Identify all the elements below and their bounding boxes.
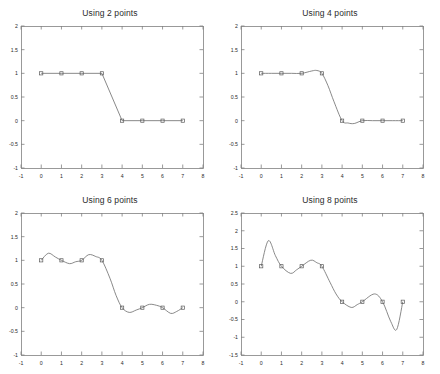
plot-area: -1012345678-1-0.500.511.52 <box>220 0 440 187</box>
x-tick-label: 8 <box>422 360 425 366</box>
y-tick-label: 2 <box>15 23 18 29</box>
y-tick-label: -1 <box>13 165 18 171</box>
x-tick-label: 6 <box>381 173 384 179</box>
x-tick-label: 5 <box>141 360 144 366</box>
y-tick-label: 0 <box>235 118 238 124</box>
plot-panel: Using 6 points-1012345678-1-0.500.511.52 <box>0 187 220 374</box>
x-tick-label: 8 <box>422 173 425 179</box>
x-tick-label: 1 <box>60 360 63 366</box>
y-tick-label: 2 <box>235 23 238 29</box>
x-tick-label: 5 <box>141 173 144 179</box>
x-tick-label: -1 <box>239 173 244 179</box>
x-tick-label: 6 <box>381 360 384 366</box>
plot-area: -1012345678-1.5-1-0.500.511.522.5 <box>220 187 440 374</box>
y-tick-label: 0 <box>15 118 18 124</box>
x-tick-label: 3 <box>100 173 103 179</box>
y-tick-label: -0.5 <box>9 141 18 147</box>
y-tick-label: 0.5 <box>231 281 238 287</box>
y-tick-label: 2 <box>15 210 18 216</box>
x-tick-label: 3 <box>320 173 323 179</box>
x-tick-label: -1 <box>19 173 24 179</box>
x-tick-label: 6 <box>161 173 164 179</box>
x-tick-label: 2 <box>80 173 83 179</box>
x-tick-label: 2 <box>300 360 303 366</box>
x-tick-label: 4 <box>121 173 124 179</box>
y-tick-label: -1 <box>233 165 238 171</box>
y-tick-label: 1 <box>235 263 238 269</box>
plot-area: -1012345678-1-0.500.511.52 <box>0 187 220 374</box>
y-tick-label: -1.5 <box>229 352 238 358</box>
x-tick-label: 3 <box>100 360 103 366</box>
y-tick-label: 0.5 <box>11 94 18 100</box>
x-tick-label: 4 <box>121 360 124 366</box>
x-tick-label: 2 <box>300 173 303 179</box>
plot-panel: Using 4 points-1012345678-1-0.500.511.52 <box>220 0 440 187</box>
x-tick-label: 1 <box>280 360 283 366</box>
x-tick-label: 0 <box>40 360 43 366</box>
x-tick-label: 1 <box>280 173 283 179</box>
x-tick-label: 7 <box>401 173 404 179</box>
x-tick-label: -1 <box>239 360 244 366</box>
y-tick-label: -0.5 <box>229 316 238 322</box>
y-tick-label: 2.5 <box>231 210 238 216</box>
y-tick-label: 0.5 <box>231 94 238 100</box>
plot-panel: Using 8 points-1012345678-1.5-1-0.500.51… <box>220 187 440 374</box>
data-curve <box>41 73 183 120</box>
y-tick-label: 1.5 <box>11 234 18 240</box>
plot-area: -1012345678-1-0.500.511.52 <box>0 0 220 187</box>
x-tick-label: 4 <box>341 173 344 179</box>
x-tick-label: 3 <box>320 360 323 366</box>
y-tick-label: 1 <box>15 70 18 76</box>
axes-frame <box>242 214 424 356</box>
x-tick-label: 0 <box>260 360 263 366</box>
y-tick-label: 1.5 <box>231 47 238 53</box>
x-tick-label: 5 <box>361 173 364 179</box>
y-tick-label: 1 <box>235 70 238 76</box>
y-tick-label: 1.5 <box>231 245 238 251</box>
y-tick-label: 0 <box>15 305 18 311</box>
data-curve <box>261 241 403 331</box>
x-tick-label: 5 <box>361 360 364 366</box>
y-tick-label: -0.5 <box>9 328 18 334</box>
y-tick-label: -0.5 <box>229 141 238 147</box>
x-tick-label: 7 <box>181 360 184 366</box>
y-tick-label: -1 <box>13 352 18 358</box>
y-tick-label: 0 <box>235 299 238 305</box>
y-tick-label: 1.5 <box>11 47 18 53</box>
x-tick-label: 8 <box>202 360 205 366</box>
x-tick-label: 1 <box>60 173 63 179</box>
y-tick-label: 1 <box>15 257 18 263</box>
figure-container: Using 2 points-1012345678-1-0.500.511.52… <box>0 0 440 374</box>
x-tick-label: -1 <box>19 360 24 366</box>
x-tick-label: 0 <box>40 173 43 179</box>
x-tick-label: 2 <box>80 360 83 366</box>
y-tick-label: 0.5 <box>11 281 18 287</box>
x-tick-label: 8 <box>202 173 205 179</box>
y-tick-label: 2 <box>235 228 238 234</box>
data-curve <box>261 70 403 123</box>
x-tick-label: 7 <box>401 360 404 366</box>
x-tick-label: 7 <box>181 173 184 179</box>
plot-panel: Using 2 points-1012345678-1-0.500.511.52 <box>0 0 220 187</box>
x-tick-label: 6 <box>161 360 164 366</box>
x-tick-label: 4 <box>341 360 344 366</box>
y-tick-label: -1 <box>233 334 238 340</box>
x-tick-label: 0 <box>260 173 263 179</box>
